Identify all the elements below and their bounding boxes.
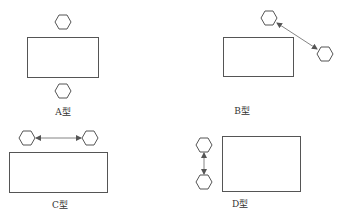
- panel-a: A型: [28, 15, 99, 117]
- hexagon-icon: [55, 15, 71, 29]
- hexagon-icon: [261, 11, 277, 25]
- panel-label: A型: [54, 107, 71, 117]
- panel-d: D型: [196, 137, 301, 210]
- hexagon-icon: [82, 131, 98, 145]
- hexagon-icon: [19, 131, 35, 145]
- hexagon-icon: [317, 47, 333, 61]
- rectangle: [223, 137, 301, 192]
- hexagon-icon: [55, 84, 71, 98]
- panel-label: C型: [52, 200, 68, 210]
- hexagon-icon: [196, 175, 212, 189]
- rectangle: [10, 153, 108, 193]
- hexagon-icon: [196, 138, 212, 152]
- double-arrow: [277, 23, 317, 49]
- panel-c: C型: [10, 131, 108, 210]
- panel-b: B型: [224, 11, 334, 116]
- layout-diagram: A型 B型 C型 D型: [0, 0, 341, 214]
- rectangle: [224, 38, 294, 77]
- panel-label: B型: [234, 106, 250, 116]
- panel-label: D型: [232, 199, 248, 209]
- rectangle: [28, 38, 99, 78]
